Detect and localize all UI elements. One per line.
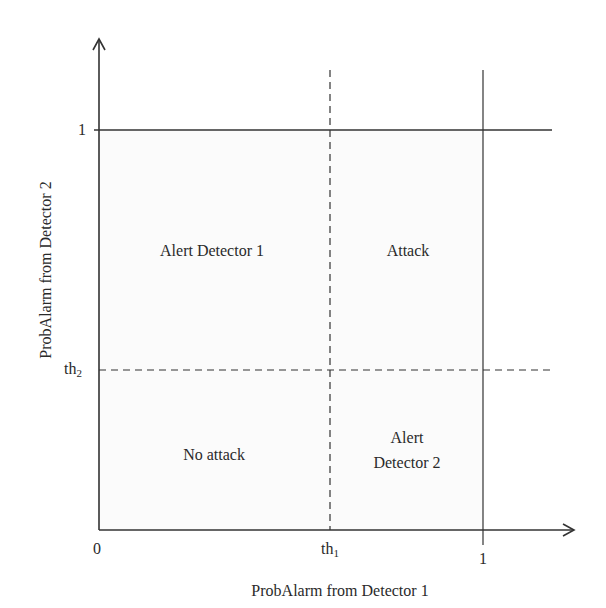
region-alert-detector-2: Alert Detector 2: [373, 429, 440, 471]
region-no-attack: No attack: [183, 446, 245, 464]
x-tick-th1-subscript: 1: [333, 547, 339, 559]
y-tick-th2-subscript: 2: [76, 367, 82, 379]
x-tick-th1: th1: [321, 540, 339, 558]
y-tick-1: 1: [78, 121, 86, 139]
region-alert-detector-1: Alert Detector 1: [160, 242, 264, 260]
x-axis-title: ProbAlarm from Detector 1: [251, 582, 428, 600]
y-tick-th2-text: th: [64, 360, 76, 377]
region-alert-detector-2-line2: Detector 2: [373, 454, 440, 472]
diagram-lines: [0, 0, 606, 608]
region-alert-detector-2-line1: Alert: [373, 429, 440, 447]
x-tick-1: 1: [479, 550, 487, 568]
x-tick-th1-text: th: [321, 540, 333, 557]
diagram-canvas: 1 th2 0 th1 1 ProbAlarm from Detector 1 …: [0, 0, 606, 608]
x-tick-0: 0: [93, 540, 101, 558]
y-tick-th2: th2: [64, 360, 82, 378]
y-axis-title: ProbAlarm from Detector 2: [37, 181, 55, 358]
region-attack: Attack: [387, 242, 430, 260]
